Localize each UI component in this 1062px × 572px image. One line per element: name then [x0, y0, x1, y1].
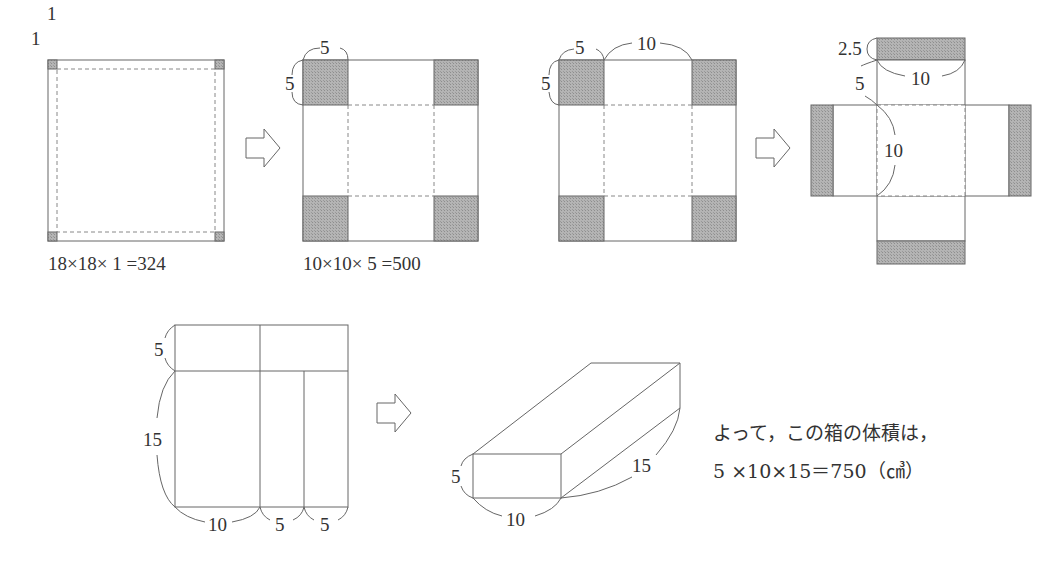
fig6-width-label: 10 [506, 509, 525, 530]
net-outline [175, 325, 348, 507]
diagram-canvas: 1 1 18×18× 1 =324 5 5 10×10× 5 =500 5 10… [0, 0, 1062, 572]
box-side-face [561, 363, 680, 498]
corner-cut [48, 60, 57, 69]
figure-3-sheet [549, 43, 736, 241]
figure-1-sheet [48, 60, 224, 241]
fig3-corner-side-label: 5 [541, 73, 551, 94]
corner-cut [434, 60, 478, 105]
dimension-arc [165, 325, 175, 371]
left-side [833, 105, 877, 196]
fig5-top-height-label: 5 [154, 339, 164, 360]
fig2-top-label: 5 [320, 37, 330, 58]
left-flap [811, 105, 833, 196]
sheet-outline [48, 60, 224, 241]
fig1-caption: 18×18× 1 =324 [48, 253, 166, 274]
fig2-side-label: 5 [285, 73, 295, 94]
figure-6-box [461, 363, 680, 516]
corner-cut [215, 232, 224, 241]
fig5-bottom-label: 5 [320, 514, 330, 535]
bottom-side [877, 196, 965, 241]
fig1-side-label: 1 [31, 28, 41, 49]
fig3-middle-label: 10 [637, 33, 656, 54]
corner-cut [215, 60, 224, 69]
fig4-flap-label: 2.5 [838, 38, 862, 59]
right-arrow-icon [756, 129, 790, 167]
corner-cut [559, 196, 604, 241]
fig4-base-label: 10 [884, 140, 903, 161]
corner-cut [434, 196, 478, 241]
fig3-corner-top-label: 5 [575, 37, 585, 58]
dimension-arc [549, 60, 559, 105]
fig6-depth-label: 15 [632, 455, 651, 476]
right-arrow-icon [377, 394, 411, 432]
fig5-height-label: 15 [143, 429, 162, 450]
fig4-flap-width-label: 10 [911, 68, 930, 89]
corner-cut [303, 60, 348, 105]
fig1-top-label: 1 [47, 3, 57, 24]
dimension-arc [461, 454, 473, 498]
fig4-side-label: 5 [855, 73, 865, 94]
dimension-arc [867, 38, 877, 60]
figure-5-net [157, 325, 348, 522]
bottom-flap [877, 241, 965, 264]
box-front-face [473, 454, 561, 498]
right-flap [1009, 105, 1031, 196]
figure-2-sheet [292, 48, 478, 241]
corner-cut [559, 60, 604, 105]
conclusion-line-2: 5 ×10×15＝750（㎤） [713, 456, 924, 483]
fig6-height-label: 5 [451, 466, 461, 487]
conclusion-line-1: よって，この箱の体積は， [713, 418, 938, 445]
corner-cut [692, 196, 736, 241]
fig5-bottom-label: 10 [208, 514, 227, 535]
top-flap [877, 38, 965, 60]
corner-cut [48, 232, 57, 241]
right-side [965, 105, 1009, 196]
box-top-face [473, 363, 680, 454]
corner-cut [692, 60, 736, 105]
fig2-caption: 10×10× 5 =500 [303, 253, 421, 274]
corner-cut [303, 196, 348, 241]
right-arrow-icon [246, 129, 280, 167]
fig5-bottom-label: 5 [275, 514, 285, 535]
